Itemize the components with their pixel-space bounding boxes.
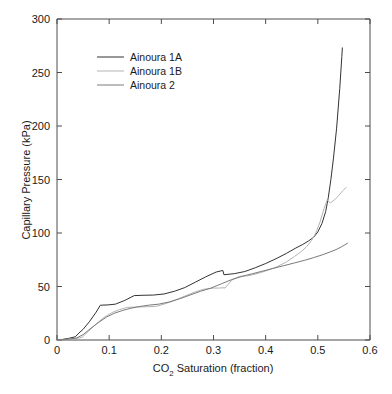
y-tick-label: 150 bbox=[32, 174, 50, 186]
series-line-1 bbox=[57, 48, 342, 340]
axes-frame bbox=[57, 19, 370, 340]
legend-label-3: Ainoura 2 bbox=[130, 79, 175, 91]
y-axis-tick-labels: 050100150200250300 bbox=[32, 13, 50, 346]
capillary-pressure-chart: 00.10.20.30.40.50.6 050100150200250300 A… bbox=[0, 0, 392, 394]
x-tick-label: 0.2 bbox=[154, 344, 169, 356]
y-tick-label: 0 bbox=[44, 334, 50, 346]
series-line-2 bbox=[57, 188, 346, 340]
y-axis-title: Capillary Pressure (kPa) bbox=[20, 120, 32, 239]
data-series-group bbox=[57, 48, 348, 340]
chart-legend: Ainoura 1AAinoura 1BAinoura 2 bbox=[97, 51, 182, 91]
legend-label-2: Ainoura 1B bbox=[130, 65, 182, 77]
y-tick-label: 100 bbox=[32, 227, 50, 239]
x-title-prefix: CO bbox=[153, 362, 170, 374]
x-tick-label: 0.5 bbox=[310, 344, 325, 356]
y-tick-label: 250 bbox=[32, 67, 50, 79]
x-tick-label: 0.1 bbox=[102, 344, 117, 356]
x-axis-ticks bbox=[57, 19, 370, 340]
x-title-suffix: Saturation (fraction) bbox=[174, 362, 274, 374]
y-tick-label: 50 bbox=[38, 281, 50, 293]
x-tick-label: 0 bbox=[54, 344, 60, 356]
x-axis-title: CO2 Saturation (fraction) bbox=[153, 362, 274, 378]
plot-border bbox=[57, 19, 370, 340]
svg-text:CO2 Saturation (fraction): CO2 Saturation (fraction) bbox=[153, 362, 274, 378]
x-tick-label: 0.3 bbox=[206, 344, 221, 356]
chart-figure: 00.10.20.30.40.50.6 050100150200250300 A… bbox=[0, 0, 392, 394]
y-tick-label: 300 bbox=[32, 13, 50, 25]
x-tick-label: 0.4 bbox=[258, 344, 273, 356]
x-axis-tick-labels: 00.10.20.30.40.50.6 bbox=[54, 344, 378, 356]
x-tick-label: 0.6 bbox=[362, 344, 377, 356]
y-title-text: Capillary Pressure (kPa) bbox=[20, 120, 32, 239]
y-axis-ticks bbox=[57, 19, 370, 340]
y-tick-label: 200 bbox=[32, 120, 50, 132]
legend-label-1: Ainoura 1A bbox=[130, 51, 182, 63]
series-line-3 bbox=[57, 243, 348, 340]
